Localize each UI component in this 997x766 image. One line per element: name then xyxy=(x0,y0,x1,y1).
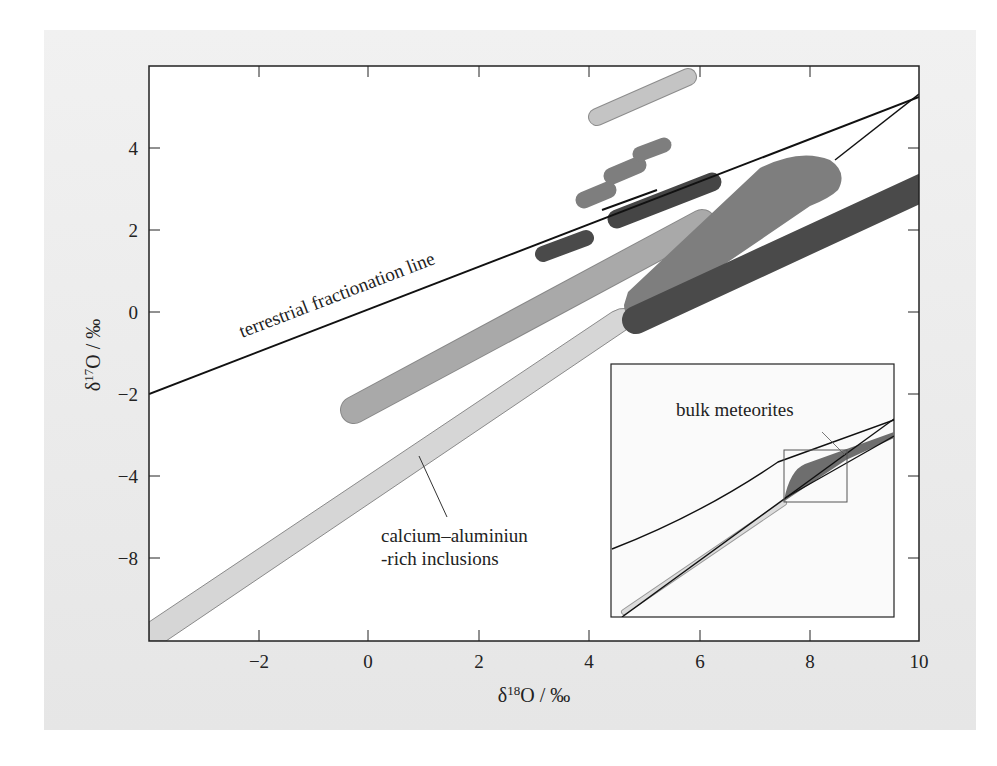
svg-text:2: 2 xyxy=(129,220,139,241)
svg-text:6: 6 xyxy=(695,651,705,672)
svg-text:−4: −4 xyxy=(118,466,139,487)
cai-label-line1: calcium–aluminiun xyxy=(381,525,528,546)
svg-text:4: 4 xyxy=(129,138,139,159)
x-axis-title: δ18O / ‰ xyxy=(498,683,570,706)
x-tick-labels: −2 0 2 4 6 8 10 xyxy=(249,651,929,672)
svg-text:10: 10 xyxy=(910,651,929,672)
mid-step-3 xyxy=(640,145,664,154)
inset-overview: bulk meteorites xyxy=(611,364,894,617)
svg-text:8: 8 xyxy=(805,651,815,672)
svg-text:−2: −2 xyxy=(118,384,138,405)
svg-text:4: 4 xyxy=(584,651,594,672)
svg-text:−2: −2 xyxy=(249,651,269,672)
y-tick-labels: 4 2 0 −2 −4 −8 xyxy=(118,138,139,569)
bulk-meteorites-label: bulk meteorites xyxy=(676,399,794,420)
cai-label-line2: -rich inclusions xyxy=(381,548,499,569)
svg-text:−8: −8 xyxy=(118,548,138,569)
oxygen-isotope-chart: bulk meteorites −2 0 2 4 6 8 10 4 2 0 −2… xyxy=(0,0,997,766)
y-axis-title: δ17O / ‰ xyxy=(81,319,104,391)
svg-text:0: 0 xyxy=(363,651,373,672)
mid-step-2 xyxy=(612,165,638,176)
svg-text:2: 2 xyxy=(474,651,484,672)
svg-text:0: 0 xyxy=(129,302,139,323)
mid-step-1 xyxy=(584,190,608,200)
